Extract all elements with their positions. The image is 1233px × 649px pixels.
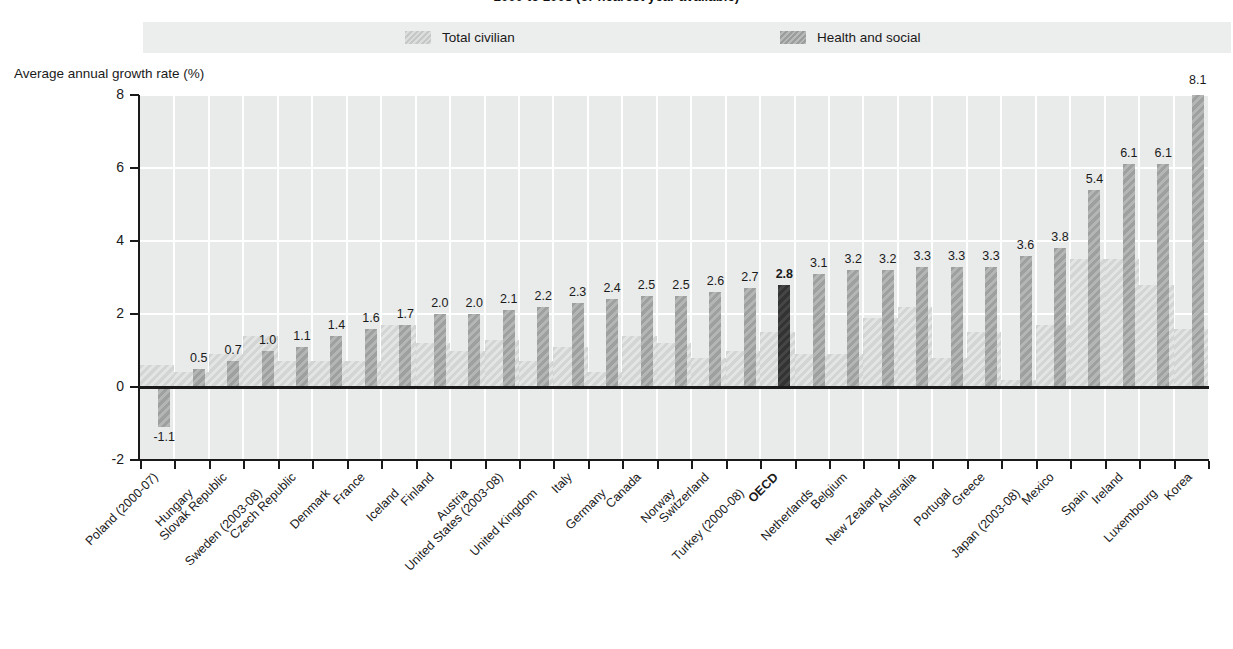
x-tick-mark-10: [485, 461, 487, 469]
bar-health-and-social[interactable]: [847, 270, 859, 387]
bar-health-and-social[interactable]: [813, 274, 825, 387]
bar-health-and-social[interactable]: [1192, 95, 1204, 387]
legend-swatch-total-civilian: [405, 31, 431, 44]
bar-group[interactable]: [829, 95, 863, 460]
bar-health-and-social[interactable]: [606, 299, 618, 387]
bar-health-and-social[interactable]: [778, 285, 790, 387]
value-label: 6.1: [1145, 146, 1181, 160]
value-label: 2.3: [560, 285, 596, 299]
x-tick-mark-5: [312, 461, 314, 469]
value-label: 2.1: [491, 292, 527, 306]
x-tick-mark-25: [1001, 461, 1003, 469]
bar-health-and-social[interactable]: [537, 307, 549, 387]
x-tick-mark-11: [519, 461, 521, 469]
category-label: Korea: [1161, 470, 1194, 503]
legend-swatch-health-and-social: [780, 31, 806, 44]
bar-health-and-social[interactable]: [572, 303, 584, 387]
bar-health-and-social[interactable]: [916, 267, 928, 387]
category-label: Ireland: [1089, 470, 1126, 507]
bar-health-and-social[interactable]: [951, 267, 963, 387]
bar-group[interactable]: [416, 95, 450, 460]
legend-label-total-civilian: Total civilian: [442, 30, 515, 45]
legend-label-health-and-social: Health and social: [817, 30, 921, 45]
bar-group[interactable]: [863, 95, 897, 460]
x-tick-mark-27: [1070, 461, 1072, 469]
legend-item-health-and-social: Health and social: [780, 30, 921, 45]
category-label: Netherlands: [758, 486, 816, 544]
value-label: -1.1: [146, 430, 182, 444]
bar-health-and-social[interactable]: [262, 351, 274, 388]
bar-group[interactable]: [243, 95, 277, 460]
x-tick-mark-26: [1036, 461, 1038, 469]
value-label: 1.7: [387, 307, 423, 321]
bar-health-and-social[interactable]: [330, 336, 342, 387]
bar-health-and-social[interactable]: [1020, 256, 1032, 387]
value-label: 3.3: [904, 249, 940, 263]
x-tick-mark-21: [863, 461, 865, 469]
bar-group[interactable]: [898, 95, 932, 460]
bar-health-and-social[interactable]: [1123, 164, 1135, 387]
bar-health-and-social[interactable]: [503, 310, 515, 387]
bar-health-and-social[interactable]: [1088, 190, 1100, 387]
value-label: 6.1: [1111, 146, 1147, 160]
category-label: Italy: [548, 470, 574, 496]
bar-group[interactable]: [588, 95, 622, 460]
value-label: 2.7: [732, 270, 768, 284]
bar-total-civilian[interactable]: [140, 365, 174, 387]
bar-group[interactable]: [519, 95, 553, 460]
bar-health-and-social[interactable]: [709, 292, 721, 387]
category-label: Iceland: [364, 486, 402, 524]
bar-health-and-social[interactable]: [641, 296, 653, 387]
bar-health-and-social[interactable]: [399, 325, 411, 387]
category-label: Poland (2000-07): [83, 470, 161, 548]
bar-health-and-social[interactable]: [675, 296, 687, 387]
bar-health-and-social[interactable]: [744, 288, 756, 387]
value-label: 0.7: [215, 343, 251, 357]
bar-group[interactable]: [1001, 95, 1035, 460]
bar-health-and-social[interactable]: [1157, 164, 1169, 387]
bar-group[interactable]: [381, 95, 415, 460]
bar-health-and-social[interactable]: [468, 314, 480, 387]
zero-baseline: [140, 386, 1209, 389]
bar-group[interactable]: [278, 95, 312, 460]
value-label: 3.8: [1042, 230, 1078, 244]
category-label: OECD: [746, 470, 781, 505]
value-label: 2.8: [766, 267, 802, 281]
x-tick-mark-7: [381, 461, 383, 469]
x-tick-mark-1: [174, 461, 176, 469]
value-label: 1.4: [318, 318, 354, 332]
x-tick-mark-23: [932, 461, 934, 469]
bar-health-and-social[interactable]: [296, 347, 308, 387]
bar-group[interactable]: [209, 95, 243, 460]
bar-health-and-social[interactable]: [158, 387, 170, 427]
bar-health-and-social[interactable]: [227, 361, 239, 387]
bar-health-and-social[interactable]: [985, 267, 997, 387]
bar-group[interactable]: [553, 95, 587, 460]
bar-health-and-social[interactable]: [434, 314, 446, 387]
x-tick-mark-19: [795, 461, 797, 469]
bar-health-and-social[interactable]: [1054, 248, 1066, 387]
x-tick-mark-6: [347, 461, 349, 469]
y-tick-label-0: 0: [0, 378, 124, 394]
category-label: France: [330, 470, 367, 507]
bar-group[interactable]: [967, 95, 1001, 460]
legend-item-total-civilian: Total civilian: [405, 30, 515, 45]
category-label: Portugal: [911, 486, 954, 529]
bar-group[interactable]: [1036, 95, 1070, 460]
x-tick-mark-28: [1105, 461, 1107, 469]
bar-health-and-social[interactable]: [365, 329, 377, 387]
bar-group[interactable]: [140, 95, 174, 460]
x-tick-mark-17: [726, 461, 728, 469]
bar-group[interactable]: [450, 95, 484, 460]
y-axis-line: [138, 95, 140, 461]
x-tick-mark-29: [1139, 461, 1141, 469]
bar-health-and-social[interactable]: [193, 369, 205, 387]
category-label: Mexico: [1019, 470, 1057, 508]
bar-group[interactable]: [312, 95, 346, 460]
bar-group[interactable]: [1070, 95, 1104, 460]
bar-group[interactable]: [485, 95, 519, 460]
bar-group[interactable]: [174, 95, 208, 460]
bar-group[interactable]: [347, 95, 381, 460]
bar-health-and-social[interactable]: [882, 270, 894, 387]
bar-group[interactable]: [932, 95, 966, 460]
